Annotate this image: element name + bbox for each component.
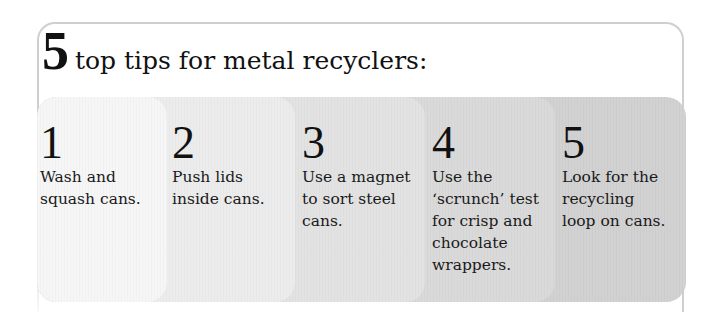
tip-number: 1 bbox=[40, 122, 168, 164]
tip-text: Use a magnet to sort steel cans. bbox=[302, 166, 430, 232]
page-title: 5top tips for metal recyclers: bbox=[42, 24, 427, 78]
tip-number: 4 bbox=[432, 122, 560, 164]
tip-text: Use the ‘scrunch’ test for crisp and cho… bbox=[432, 166, 560, 276]
tip-number: 3 bbox=[302, 122, 430, 164]
tip-3: 3 Use a magnet to sort steel cans. bbox=[302, 122, 430, 232]
tip-5: 5 Look for the recycling loop on cans. bbox=[562, 122, 690, 232]
tip-2: 2 Push lids inside cans. bbox=[172, 122, 300, 210]
tip-text: Look for the recycling loop on cans. bbox=[562, 166, 690, 232]
tip-4: 4 Use the ‘scrunch’ test for crisp and c… bbox=[432, 122, 560, 276]
title-number: 5 bbox=[42, 21, 69, 81]
tip-text: Push lids inside cans. bbox=[172, 166, 300, 210]
tip-number: 5 bbox=[562, 122, 690, 164]
tip-number: 2 bbox=[172, 122, 300, 164]
tip-1: 1 Wash and squash cans. bbox=[40, 122, 168, 210]
title-text: top tips for metal recyclers: bbox=[75, 46, 427, 75]
tip-text: Wash and squash cans. bbox=[40, 166, 168, 210]
